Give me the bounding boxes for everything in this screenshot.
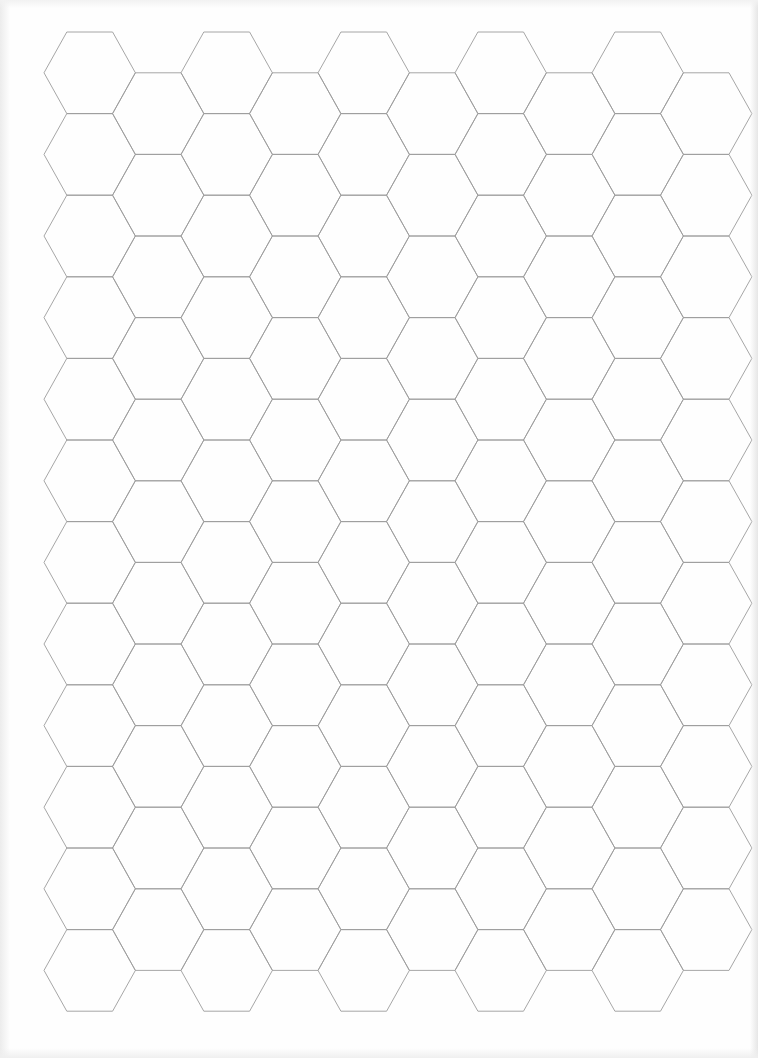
hex-cell bbox=[524, 726, 615, 808]
hex-cell bbox=[318, 930, 409, 1012]
hex-cell bbox=[44, 766, 135, 848]
hex-grid bbox=[0, 0, 758, 1058]
hex-cell bbox=[661, 807, 752, 889]
hex-cell bbox=[661, 154, 752, 236]
hex-cell bbox=[113, 481, 204, 563]
hex-cell bbox=[387, 889, 478, 971]
hex-cell bbox=[113, 562, 204, 644]
hex-cell bbox=[524, 644, 615, 726]
hex-cell bbox=[524, 73, 615, 155]
hex-cell bbox=[455, 114, 546, 196]
hex-cell bbox=[661, 644, 752, 726]
hex-cell bbox=[44, 930, 135, 1012]
hex-cell bbox=[44, 603, 135, 685]
hex-cell bbox=[181, 603, 272, 685]
hex-cell bbox=[113, 399, 204, 481]
hex-cell bbox=[592, 685, 683, 767]
hex-cell bbox=[455, 440, 546, 522]
hex-cell bbox=[44, 114, 135, 196]
hex-cell bbox=[524, 399, 615, 481]
hex-cell bbox=[455, 32, 546, 114]
hex-cell bbox=[113, 726, 204, 808]
hex-cell bbox=[455, 685, 546, 767]
hex-cell bbox=[44, 440, 135, 522]
page-edge-shadow-top bbox=[0, 0, 758, 8]
hex-cell bbox=[661, 73, 752, 155]
hex-cell bbox=[318, 358, 409, 440]
hex-cell bbox=[455, 522, 546, 604]
hex-cell bbox=[661, 318, 752, 400]
hex-cell bbox=[318, 195, 409, 277]
hex-cell bbox=[387, 318, 478, 400]
hex-cell bbox=[113, 73, 204, 155]
hex-cell bbox=[250, 807, 341, 889]
hex-cell bbox=[250, 73, 341, 155]
hex-cell bbox=[387, 154, 478, 236]
hex-cell bbox=[181, 277, 272, 359]
hex-cell bbox=[661, 562, 752, 644]
hex-cell bbox=[318, 440, 409, 522]
hex-cell bbox=[181, 930, 272, 1012]
hex-cell bbox=[661, 481, 752, 563]
hex-cell bbox=[592, 277, 683, 359]
hex-cell bbox=[250, 726, 341, 808]
hex-cell bbox=[250, 644, 341, 726]
hex-cell bbox=[181, 766, 272, 848]
hex-cell bbox=[181, 848, 272, 930]
hex-cell bbox=[387, 807, 478, 889]
hex-cell bbox=[592, 930, 683, 1012]
hex-cell bbox=[592, 848, 683, 930]
hex-cell bbox=[661, 889, 752, 971]
hex-cell bbox=[318, 603, 409, 685]
hex-cell bbox=[524, 236, 615, 318]
hex-cell bbox=[524, 154, 615, 236]
hex-cell bbox=[318, 685, 409, 767]
hex-cell bbox=[387, 481, 478, 563]
hex-cell bbox=[181, 32, 272, 114]
hex-cell bbox=[524, 481, 615, 563]
hex-cell bbox=[44, 277, 135, 359]
hex-cell bbox=[592, 603, 683, 685]
hex-cell bbox=[455, 930, 546, 1012]
hex-cell bbox=[592, 195, 683, 277]
hex-cell bbox=[592, 440, 683, 522]
hex-cell bbox=[661, 236, 752, 318]
hex-cell bbox=[250, 154, 341, 236]
hex-cell bbox=[250, 399, 341, 481]
page-edge-shadow-bottom bbox=[0, 1048, 758, 1058]
hex-cell bbox=[387, 562, 478, 644]
hex-cell bbox=[455, 603, 546, 685]
page-edge-shadow-right bbox=[750, 0, 758, 1058]
hex-cell bbox=[113, 318, 204, 400]
hex-cell bbox=[250, 236, 341, 318]
hex-cell bbox=[181, 358, 272, 440]
hex-paper-page bbox=[0, 0, 758, 1058]
hex-cell bbox=[592, 32, 683, 114]
hex-cell bbox=[44, 522, 135, 604]
hex-cell bbox=[250, 481, 341, 563]
hex-cell bbox=[113, 154, 204, 236]
hex-cell bbox=[44, 358, 135, 440]
hex-cell bbox=[524, 807, 615, 889]
hex-cell bbox=[455, 766, 546, 848]
hex-cell bbox=[113, 889, 204, 971]
hex-cell bbox=[250, 318, 341, 400]
hex-cell bbox=[44, 685, 135, 767]
hex-cell bbox=[455, 195, 546, 277]
hex-cell bbox=[181, 440, 272, 522]
hex-cell bbox=[524, 562, 615, 644]
hex-cell bbox=[113, 644, 204, 726]
hex-cell bbox=[44, 848, 135, 930]
hex-cell bbox=[250, 562, 341, 644]
hex-cell bbox=[592, 114, 683, 196]
hex-cell bbox=[113, 236, 204, 318]
hex-cell bbox=[455, 358, 546, 440]
hex-cell bbox=[318, 114, 409, 196]
hex-cell bbox=[181, 522, 272, 604]
hex-cell bbox=[387, 236, 478, 318]
hex-cell bbox=[318, 848, 409, 930]
hex-cell bbox=[181, 114, 272, 196]
hex-cell bbox=[387, 644, 478, 726]
hex-cell bbox=[44, 32, 135, 114]
page-edge-shadow-left bbox=[0, 0, 10, 1058]
